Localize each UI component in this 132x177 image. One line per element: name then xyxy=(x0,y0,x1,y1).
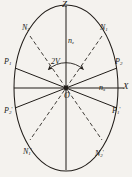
refractive-index-nz-label: nz xyxy=(68,37,74,46)
n2-sub: 2 xyxy=(27,27,29,32)
n1p-prime: ' xyxy=(31,147,32,153)
plane-p2-label: P2 xyxy=(115,58,122,67)
n2p-prime: ' xyxy=(103,149,104,155)
nx-sub: x xyxy=(103,87,105,92)
x-axis-label: X xyxy=(123,82,129,91)
z-axis-label: Z xyxy=(62,0,67,9)
origin-label: O xyxy=(64,92,70,100)
p2-sub: 2 xyxy=(120,61,122,66)
p2p-prime: ' xyxy=(11,106,12,112)
optic-axis-n2-prime-label: N2' xyxy=(95,150,104,159)
optic-axis-n1-prime-label: N1' xyxy=(23,148,32,157)
plane-p2-prime-label: P2' xyxy=(4,107,12,116)
p1-sub: 1 xyxy=(9,61,11,66)
diagram-svg xyxy=(0,0,132,177)
origin-point xyxy=(64,86,69,91)
figure-canvas: Z X O nz nx 2V N2 N1 N1' N2' P1 P2 P2' P… xyxy=(0,0,132,177)
optic-axis-n1-label: N1 xyxy=(100,24,108,33)
plane-p1-label: P1 xyxy=(4,58,11,67)
nz-sub: z xyxy=(72,40,74,45)
angle-2v-label: 2V xyxy=(51,58,60,66)
plane-p1-prime-label: P1' xyxy=(112,107,120,116)
p1p-prime: ' xyxy=(119,106,120,112)
refractive-index-nx-label: nx xyxy=(99,84,105,93)
n1-sub: 1 xyxy=(105,27,107,32)
optic-axis-n2-label: N2 xyxy=(22,24,30,33)
